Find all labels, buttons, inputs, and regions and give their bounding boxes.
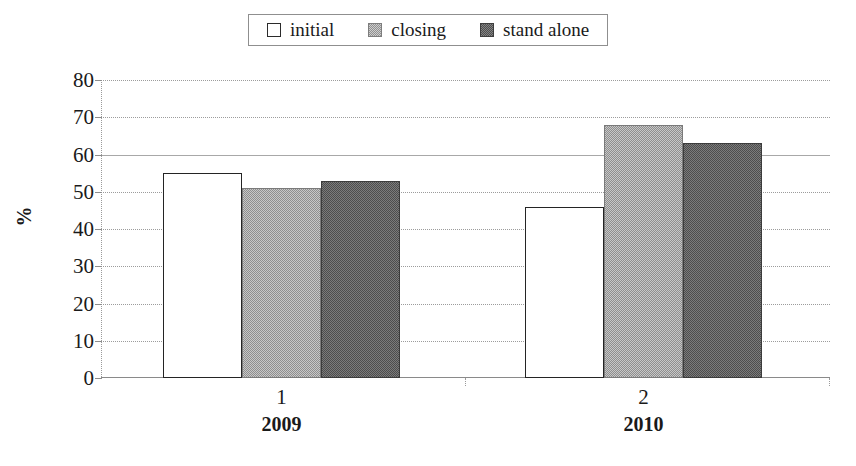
x-tick-label: 1 [202,386,362,408]
y-tick-label: 60 [48,144,94,165]
bar-chart: % 80706050403020100 1200922010 [0,0,856,466]
x-axis-end-tick [829,378,830,386]
y-tick-label: 10 [48,330,94,351]
x-axis-separator-tick [465,378,466,386]
y-tick-label: 30 [48,256,94,277]
bar-stand-alone-2 [683,143,762,378]
x-tick-label: 2 [564,386,724,408]
y-axis-ticks: 80706050403020100 [42,0,94,466]
bar-stand-alone-1 [321,181,400,378]
bar-closing-2 [604,125,683,378]
y-axis-label: % [13,207,36,227]
plot-area [101,80,830,378]
bar-series-layer [101,80,830,378]
bar-initial-1 [163,173,242,378]
y-tick-label: 80 [48,70,94,91]
y-tick-label: 20 [48,293,94,314]
y-tick-mark [95,378,102,379]
y-tick-label: 0 [48,368,94,389]
bar-initial-2 [525,207,604,378]
y-tick-label: 40 [48,219,94,240]
x-group-label: 2010 [564,414,724,435]
bar-closing-1 [242,188,321,378]
x-group-label: 2009 [202,414,362,435]
y-tick-label: 70 [48,107,94,128]
y-tick-label: 50 [48,181,94,202]
